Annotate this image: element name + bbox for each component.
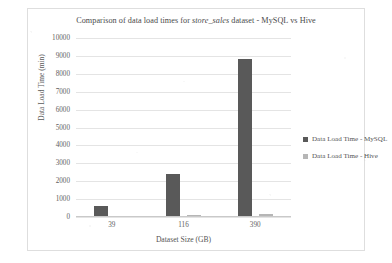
y-axis-tick-label: 0: [66, 213, 70, 221]
bar-mysql-390[interactable]: [238, 59, 252, 217]
x-axis-tick-label: 39: [76, 221, 148, 229]
chart-title-prefix: Comparison of data load times for: [76, 16, 192, 25]
x-axis-title: Dataset Size (GB): [76, 235, 291, 244]
y-axis-tick-label: 3000: [56, 159, 70, 167]
gridline: [76, 217, 291, 218]
legend-swatch-icon: [303, 137, 308, 142]
chart-frame: Comparison of data load times for store_…: [27, 8, 365, 251]
y-axis-tick-labels: 1000090008000700060005000400030002000100…: [28, 38, 74, 217]
x-axis-line: [76, 216, 291, 217]
bars-layer: [76, 38, 291, 217]
legend-swatch-icon: [303, 154, 308, 159]
y-axis-tick-label: 5000: [56, 124, 70, 132]
chart-title-suffix: dataset - MySQL vs Hive: [229, 16, 316, 25]
bar-group: [238, 38, 273, 217]
bar-group: [94, 38, 129, 217]
x-axis-tick-labels: 39116390: [76, 221, 291, 229]
legend-item-mysql[interactable]: Data Load Time - MySQL: [303, 135, 387, 143]
chart-legend: Data Load Time - MySQLData Load Time - H…: [303, 135, 387, 160]
chart-title-emphasis: store_sales: [192, 16, 229, 25]
legend-item-hive[interactable]: Data Load Time - Hive: [303, 152, 387, 160]
legend-label: Data Load Time - MySQL: [312, 135, 387, 143]
y-axis-tick-label: 2000: [56, 177, 70, 185]
y-axis-tick-label: 6000: [56, 106, 70, 114]
x-axis-tick-label: 390: [219, 221, 291, 229]
y-axis-tick-label: 7000: [56, 88, 70, 96]
chart-title: Comparison of data load times for store_…: [28, 16, 364, 25]
y-axis-tick-label: 1000: [56, 195, 70, 203]
y-axis-tick-label: 4000: [56, 141, 70, 149]
plot-area: [76, 38, 291, 217]
bar-group: [166, 38, 201, 217]
y-axis-tick-label: 9000: [56, 52, 70, 60]
legend-label: Data Load Time - Hive: [312, 152, 378, 160]
x-axis-tick-label: 116: [148, 221, 220, 229]
y-axis-tick-label: 10000: [52, 34, 70, 42]
y-axis-tick-label: 8000: [56, 70, 70, 78]
bar-mysql-116[interactable]: [166, 174, 180, 217]
